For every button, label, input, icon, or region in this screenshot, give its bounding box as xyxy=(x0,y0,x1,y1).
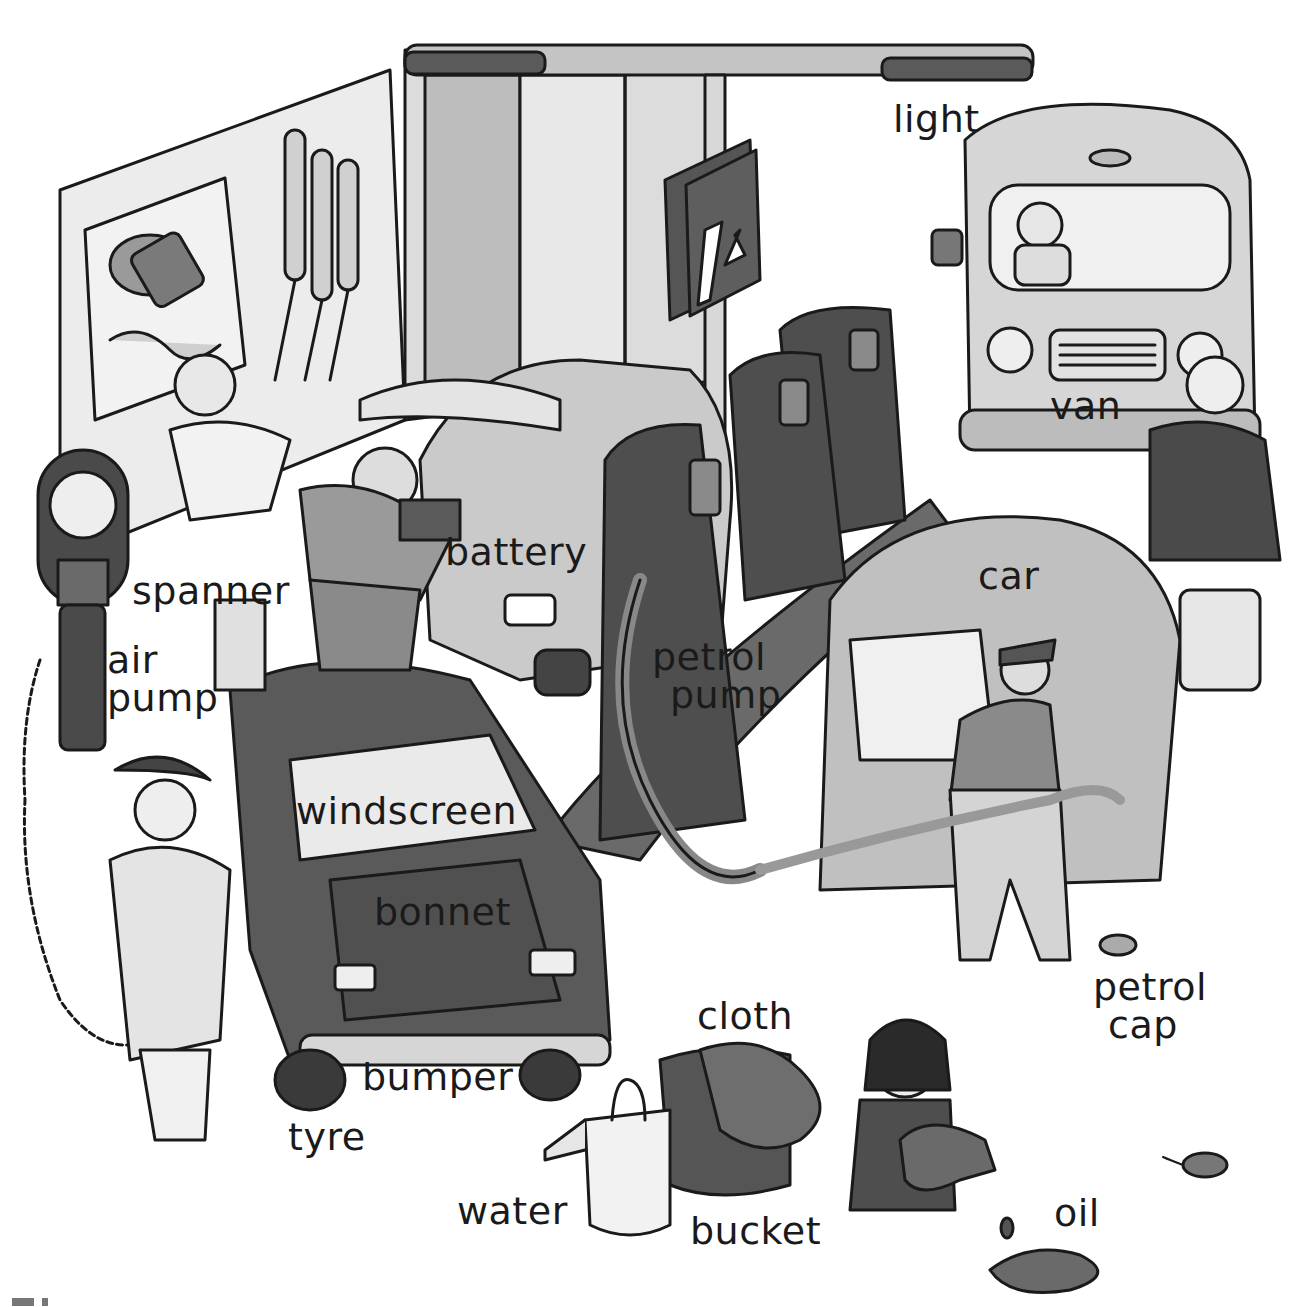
label-petrol-pump-line1: petrol xyxy=(652,638,781,676)
label-air-pump: air pump xyxy=(107,641,218,717)
bucket-group xyxy=(545,1043,820,1235)
page-number-fragment xyxy=(0,1298,60,1307)
label-van: van xyxy=(1050,387,1121,425)
label-petrol-cap-line1: petrol xyxy=(1093,968,1207,1006)
label-petrol-pump-line2: pump xyxy=(652,676,781,714)
label-cloth: cloth xyxy=(697,997,793,1035)
label-water: water xyxy=(457,1192,568,1230)
label-light: light xyxy=(893,100,980,138)
label-spanner: spanner xyxy=(132,572,290,610)
label-battery: battery xyxy=(445,533,587,571)
label-windscreen: windscreen xyxy=(296,792,517,830)
label-tyre: tyre xyxy=(288,1118,366,1156)
label-petrol-cap-line2: cap xyxy=(1093,1006,1207,1044)
label-petrol-pump: petrol pump xyxy=(652,638,781,714)
label-bumper: bumper xyxy=(362,1058,513,1096)
label-petrol-cap: petrol cap xyxy=(1093,968,1207,1044)
label-bonnet: bonnet xyxy=(374,893,511,931)
label-air-pump-line2: pump xyxy=(107,679,218,717)
label-bucket: bucket xyxy=(690,1212,821,1250)
label-car: car xyxy=(978,557,1039,595)
label-oil: oil xyxy=(1054,1194,1100,1232)
mouse xyxy=(1163,1153,1227,1177)
label-air-pump-line1: air xyxy=(107,641,218,679)
woman xyxy=(110,757,230,1140)
girl-with-oil-can xyxy=(850,1020,1098,1293)
front-car xyxy=(230,662,610,1110)
